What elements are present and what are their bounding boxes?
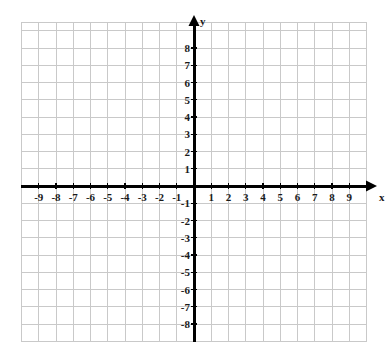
coordinate-plane-figure: -9-8-7-6-5-4-3-2-112345678987654321-1-2-…: [0, 0, 392, 362]
x-tick-label: -7: [69, 192, 78, 203]
x-tick-label: 8: [329, 192, 335, 203]
x-tick-label: 7: [312, 192, 318, 203]
y-tick-label: -6: [181, 284, 190, 295]
x-tick-label: -4: [120, 192, 129, 203]
y-axis-label: y: [200, 16, 206, 27]
x-tick-label: 6: [295, 192, 301, 203]
x-tick-label: 9: [347, 192, 353, 203]
y-tick-label: 1: [185, 163, 191, 174]
x-tick-label: 1: [209, 192, 215, 203]
y-tick-label: -5: [181, 267, 190, 278]
x-tick-label: -6: [86, 192, 95, 203]
y-tick-label: 3: [185, 129, 191, 140]
x-axis-label: x: [379, 192, 385, 203]
y-tick-label: -8: [181, 319, 190, 330]
y-tick-label: -3: [181, 232, 190, 243]
y-tick-label: 5: [185, 94, 191, 105]
x-axis-arrowhead: [366, 181, 377, 192]
y-tick-label: 4: [185, 112, 191, 123]
y-tick-label: -7: [181, 301, 190, 312]
coordinate-plane-svg: [0, 0, 392, 362]
y-tick-label: -4: [181, 250, 190, 261]
y-axis-arrowhead: [189, 15, 200, 26]
x-tick-label: 5: [278, 192, 284, 203]
y-tick-label: -2: [181, 215, 190, 226]
y-tick-label: 8: [185, 43, 191, 54]
x-tick-label: 4: [260, 192, 266, 203]
y-tick-label: -1: [181, 198, 190, 209]
y-tick-label: 6: [185, 77, 191, 88]
x-tick-label: -2: [155, 192, 164, 203]
y-tick-label: 7: [185, 60, 191, 71]
x-tick-label: -3: [138, 192, 147, 203]
x-tick-label: -5: [103, 192, 112, 203]
x-tick-label: 2: [226, 192, 232, 203]
y-tick-label: 2: [185, 146, 191, 157]
axes: [21, 15, 377, 342]
x-tick-label: -9: [34, 192, 43, 203]
x-tick-label: -8: [51, 192, 60, 203]
x-tick-label: 3: [243, 192, 249, 203]
